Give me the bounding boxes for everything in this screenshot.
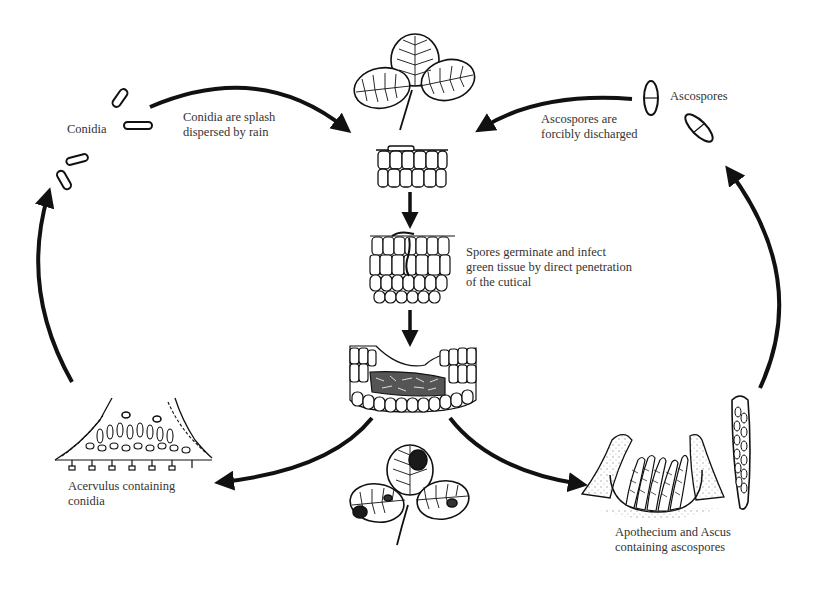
label-apothecium-line2: containing ascospores [615, 540, 731, 555]
label-discharge-line2: forcibly discharged [541, 127, 638, 142]
arrow-acervulus-to-conidia [38, 195, 72, 382]
arrow-infection-to-acervulus [222, 418, 372, 482]
life-cycle-diagram: Conidia Conidia are splash dispersed by … [0, 0, 817, 589]
label-acervulus-line1: Acervulus containing [68, 479, 175, 494]
arrow-infection-to-apothecium [450, 418, 580, 484]
diseased-leaf-illustration [348, 445, 472, 545]
label-ascospores: Ascospores [670, 89, 728, 104]
label-splash-line2: dispersed by rain [183, 125, 275, 140]
label-splash-dispersal: Conidia are splash dispersed by rain [183, 110, 275, 140]
label-discharge-line1: Ascospores are [541, 112, 638, 127]
arrow-apothecium-to-ascospores [730, 172, 779, 388]
label-acervulus: Acervulus containing conidia [68, 479, 175, 509]
label-acervulus-line2: conidia [68, 494, 175, 509]
infected-tissue-section [350, 346, 476, 412]
label-apothecium-line1: Apothecium and Ascus [615, 525, 731, 540]
label-conidia: Conidia [67, 122, 107, 137]
label-splash-line1: Conidia are splash [183, 110, 275, 125]
conidia-spores [56, 88, 152, 191]
acervulus-illustration [55, 398, 212, 470]
healthy-leaf-illustration [351, 34, 479, 130]
cuticle-spore-section [376, 146, 448, 187]
germination-section [370, 232, 455, 303]
label-apothecium: Apothecium and Ascus containing ascospor… [615, 525, 731, 555]
label-germinate-line2: green tissue by direct penetration [466, 260, 632, 275]
label-forcible-discharge: Ascospores are forcibly discharged [541, 112, 638, 142]
label-germination: Spores germinate and infect green tissue… [466, 245, 632, 290]
label-germinate-line3: of the cutical [466, 275, 632, 290]
label-germinate-line1: Spores germinate and infect [466, 245, 632, 260]
apothecium-illustration [582, 396, 750, 520]
